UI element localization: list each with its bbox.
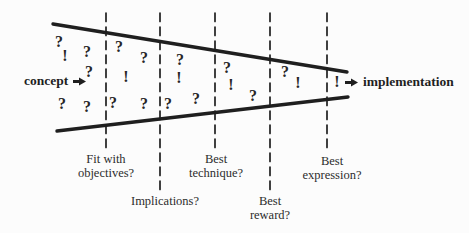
question-mark: ? <box>223 60 231 76</box>
question-mark: ? <box>164 96 172 112</box>
question-mark: ? <box>115 39 123 55</box>
question-mark: ? <box>58 96 66 112</box>
stage-label: Best expression? <box>302 155 361 182</box>
exclamation-mark: ! <box>176 70 181 86</box>
exclamation-mark: ! <box>228 77 233 93</box>
funnel-converging-lines <box>53 24 348 131</box>
implementation-label: implementation <box>363 75 454 89</box>
concept-label: concept <box>24 74 68 88</box>
question-mark: ? <box>109 95 117 111</box>
question-mark: ? <box>249 88 257 104</box>
stage-label: Fit with objectives? <box>78 153 134 180</box>
stage-label: Implications? <box>131 195 199 209</box>
question-mark: ? <box>281 64 289 80</box>
question-mark: ? <box>176 52 184 68</box>
question-mark: ? <box>140 50 148 66</box>
right-arrow-icon <box>73 77 86 86</box>
exclamation-mark: ! <box>295 75 300 91</box>
concept-endpoint: concept <box>24 74 86 88</box>
exclamation-mark: ! <box>123 69 128 85</box>
implementation-endpoint: implementation <box>345 75 454 89</box>
stage-label: Best technique? <box>189 153 243 180</box>
funnel-lines-layer <box>0 0 469 233</box>
right-arrow-icon <box>345 78 358 87</box>
question-mark: ? <box>83 99 91 115</box>
funnel-diagram: ?!??????!???!???!??!! Fit with objective… <box>0 0 469 233</box>
question-mark: ? <box>140 96 148 112</box>
funnel-bottom-line <box>57 97 348 131</box>
stage-label: Best reward? <box>250 195 290 222</box>
exclamation-mark: ! <box>334 74 339 90</box>
funnel-top-line <box>53 24 347 72</box>
exclamation-mark: ! <box>62 48 67 64</box>
question-mark: ? <box>83 44 91 60</box>
question-mark: ? <box>192 91 200 107</box>
